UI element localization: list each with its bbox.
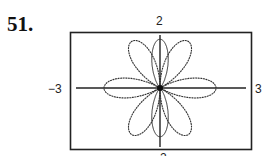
origin-dot <box>157 85 163 91</box>
plot-area <box>0 0 267 156</box>
viewing-window-frame <box>71 33 252 150</box>
